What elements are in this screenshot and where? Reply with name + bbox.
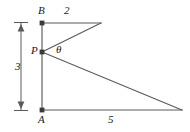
measure-label-top: 2 — [64, 5, 70, 16]
point-label-B: B — [38, 5, 45, 16]
segment-P-to-bottom-apex — [42, 52, 182, 110]
angle-label-theta: θ — [56, 44, 61, 55]
vertex-dot-B — [40, 21, 45, 26]
measure-label-bottom: 5 — [108, 114, 114, 125]
dimension-arrowhead-up-icon — [18, 24, 25, 32]
figure-canvas — [0, 0, 190, 132]
vertex-dot-A — [40, 108, 45, 113]
point-label-A: A — [38, 114, 45, 125]
vertex-dot-P — [40, 50, 45, 55]
dimension-arrowhead-down-icon — [18, 102, 25, 110]
point-label-P: P — [31, 45, 38, 56]
measure-label-left: 3 — [15, 61, 21, 72]
geometry-figure: B P A θ 2 3 5 — [0, 0, 190, 132]
segment-top-apex-to-P — [42, 23, 101, 52]
